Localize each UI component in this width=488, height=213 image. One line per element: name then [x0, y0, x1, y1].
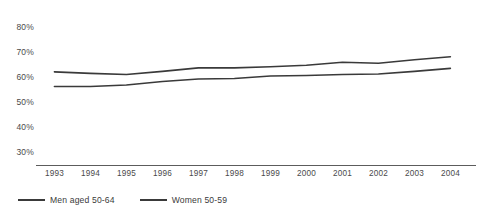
- x-tick-label: 2000: [297, 169, 316, 178]
- x-tick-label: 1994: [81, 169, 100, 178]
- x-tick-label: 2001: [333, 169, 352, 178]
- x-tick-label: 1996: [153, 169, 172, 178]
- legend-item[interactable]: Men aged 50-64: [18, 195, 115, 205]
- x-tick-label: 2004: [441, 169, 460, 178]
- x-tick-label: 1998: [225, 169, 244, 178]
- series-layer: [40, 14, 472, 165]
- legend-label: Men aged 50-64: [50, 195, 115, 205]
- x-axis-line: [36, 165, 476, 166]
- plot-area: 80%70%60%50%40%30%: [40, 14, 472, 165]
- legend-line-icon: [18, 199, 45, 201]
- x-tick-label: 1997: [189, 169, 208, 178]
- x-tick-label: 1995: [117, 169, 136, 178]
- y-tick-label: 30%: [16, 147, 34, 157]
- y-tick-label: 60%: [16, 72, 34, 82]
- y-tick-label: 50%: [16, 97, 34, 107]
- series-line: [54, 57, 450, 75]
- x-tick-label: 1999: [261, 169, 280, 178]
- y-tick-label: 80%: [16, 22, 34, 32]
- legend-line-icon: [140, 199, 167, 201]
- legend-label: Women 50-59: [172, 195, 227, 205]
- series-line: [54, 68, 450, 86]
- y-tick-label: 40%: [16, 122, 34, 132]
- y-tick-label: 70%: [16, 47, 34, 57]
- x-tick-label: 1993: [45, 169, 64, 178]
- chart-legend: Men aged 50-64Women 50-59: [18, 195, 227, 205]
- x-tick-label: 2003: [405, 169, 424, 178]
- x-tick-label: 2002: [369, 169, 388, 178]
- line-chart: 80%70%60%50%40%30% 199319941995199619971…: [0, 0, 488, 213]
- legend-item[interactable]: Women 50-59: [140, 195, 227, 205]
